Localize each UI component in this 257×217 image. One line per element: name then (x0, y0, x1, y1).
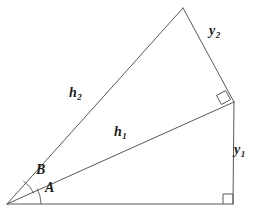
label-y1-subscript: 1 (241, 149, 246, 159)
label-h1-base: h (114, 124, 122, 139)
label-angle-b: B (36, 163, 45, 177)
label-h2: h2 (69, 86, 81, 100)
segment-h1-hypotenuse (7, 102, 234, 204)
geometry-figure: h2 h1 y2 y1 B A (0, 0, 257, 217)
label-y2-subscript: 2 (216, 30, 221, 40)
label-y1-base: y (234, 142, 240, 157)
label-h2-subscript: 2 (77, 92, 82, 102)
label-y2-base: y (209, 23, 215, 38)
label-y1: y1 (234, 143, 245, 157)
label-h1: h1 (114, 125, 126, 139)
label-h2-base: h (69, 85, 77, 100)
label-angle-a: A (45, 181, 54, 195)
label-h1-subscript: 1 (122, 131, 127, 141)
label-y2: y2 (209, 24, 220, 38)
right-angle-marker-bottom-right (223, 194, 233, 204)
angle-arc-a (37, 189, 41, 204)
angle-arc-b (23, 181, 34, 193)
segment-h2-hypotenuse (7, 8, 183, 204)
